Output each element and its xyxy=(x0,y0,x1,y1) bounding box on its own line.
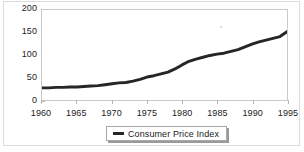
y-axis-tick-label: 200 xyxy=(0,4,37,13)
scan-speck xyxy=(220,26,222,28)
plot-area xyxy=(41,9,288,101)
y-axis-tick-label: 50 xyxy=(0,73,37,82)
y-axis: 200150100500 xyxy=(0,0,37,110)
x-axis-tick xyxy=(288,100,289,104)
y-axis-tick-label: 100 xyxy=(0,50,37,59)
x-axis-tick xyxy=(217,100,218,104)
x-axis-tick xyxy=(253,100,254,104)
x-axis-tick-label: 1960 xyxy=(21,108,61,118)
chart-legend: Consumer Price Index xyxy=(106,126,227,141)
legend-item-label: Consumer Price Index xyxy=(128,129,219,139)
x-axis-tick-label: 1990 xyxy=(233,108,273,118)
y-axis-tick-label: 150 xyxy=(0,27,37,36)
x-axis-tick-label: 1965 xyxy=(56,108,96,118)
x-axis-tick-label: 1970 xyxy=(92,108,132,118)
x-axis-tick xyxy=(147,100,148,104)
chart-figure: 200150100500 196019651970197519801985199… xyxy=(0,0,304,152)
x-axis-tick xyxy=(41,100,42,104)
x-axis-tick-label: 1975 xyxy=(127,108,167,118)
x-axis-tick xyxy=(76,100,77,104)
x-axis-tick-label: 1985 xyxy=(197,108,237,118)
x-axis-tick xyxy=(182,100,183,104)
line-swatch-icon xyxy=(113,132,124,135)
x-axis-tick-label: 1980 xyxy=(162,108,202,118)
x-axis-tick xyxy=(112,100,113,104)
series-line-consumer-price-index xyxy=(42,10,287,100)
x-axis-tick-label: 1995 xyxy=(268,108,304,118)
x-axis: 19601965197019751980198519901995 xyxy=(0,104,304,118)
